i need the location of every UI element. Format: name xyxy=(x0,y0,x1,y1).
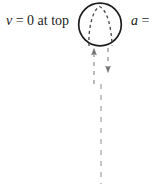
physics-figure: v = 0 at top a = xyxy=(0,0,157,184)
diagram-canvas xyxy=(0,0,157,184)
ball-circle xyxy=(79,3,122,46)
dashed-parabolic-arc xyxy=(89,7,112,47)
